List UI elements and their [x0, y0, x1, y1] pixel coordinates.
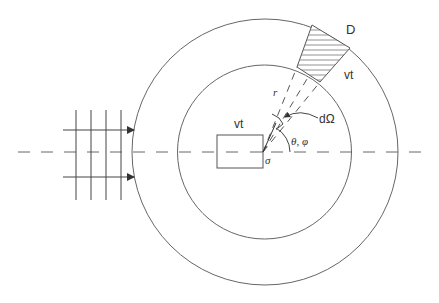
sample-volume-label: vt [234, 117, 244, 131]
detector-volume-label: vt [344, 68, 354, 82]
scattering-diagram: D vt vt r dΩ θ, φ σ [0, 0, 439, 303]
angle-arc [276, 128, 290, 152]
incident-wave [63, 110, 134, 200]
angles-label: θ, φ [291, 135, 308, 147]
radius-label: r [273, 86, 278, 98]
cross-section-label: σ [265, 154, 271, 166]
detector-label: D [346, 22, 355, 37]
solid-angle-element [263, 114, 283, 152]
outer-circle [132, 19, 398, 285]
solid-angle-pointer [285, 113, 318, 118]
solid-angle-label: dΩ [319, 112, 335, 126]
